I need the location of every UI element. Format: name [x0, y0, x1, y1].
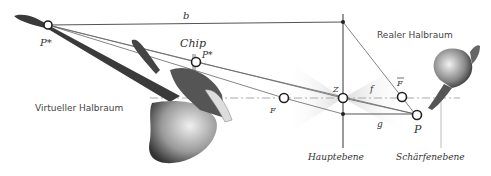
label-focus-plane: Schärfenebene	[396, 152, 465, 162]
distance-b-line	[48, 22, 343, 25]
optics-diagram: b P* Chip P* Virtueller Halbraum Realer …	[0, 0, 491, 176]
label-virtual-half-space: Virtueller Halbraum	[35, 103, 123, 113]
label-real-half-space: Realer Halbraum	[377, 30, 453, 40]
label-p-star-chip: P*	[201, 50, 213, 60]
label-center: Z	[332, 85, 339, 94]
point-center	[339, 94, 348, 103]
label-focal-right: F	[396, 79, 403, 88]
point-focal-right	[398, 93, 407, 102]
label-p: P	[413, 123, 422, 136]
real-object	[428, 45, 480, 110]
dot-top	[341, 20, 345, 24]
label-b: b	[183, 10, 189, 21]
label-p-star-left: P*	[39, 37, 52, 48]
point-p	[413, 111, 422, 120]
label-chip: Chip	[180, 37, 206, 50]
point-focal-left	[280, 94, 289, 103]
point-p-star-left	[44, 21, 52, 29]
label-g: g	[377, 119, 383, 129]
point-p-star-chip	[192, 58, 201, 67]
label-focal-left: F	[269, 106, 276, 115]
dot-bottom	[341, 112, 345, 116]
label-principal-plane: Hauptebene	[307, 152, 364, 162]
